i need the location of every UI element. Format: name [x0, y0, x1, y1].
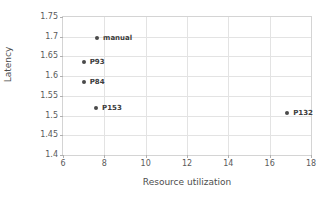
x-tick-label: 12: [182, 160, 192, 168]
data-point-label: P153: [102, 104, 122, 111]
data-point-label: manual: [103, 34, 132, 41]
x-tick-label: 18: [306, 160, 316, 168]
x-tick-mark: [228, 155, 229, 158]
y-tick-label: 1.75: [40, 13, 58, 21]
scatter-chart-figure: 1.41.451.51.551.61.651.71.75681012141618…: [0, 0, 330, 201]
x-tick-label: 6: [60, 160, 65, 168]
y-tick-label: 1.6: [45, 72, 58, 80]
gridline-vertical: [270, 17, 271, 155]
y-tick-label: 1.5: [45, 112, 58, 120]
y-tick-mark: [60, 96, 63, 97]
data-point-label: P132: [293, 110, 313, 117]
x-tick-label: 8: [102, 160, 107, 168]
y-tick-label: 1.65: [40, 52, 58, 60]
gridline-vertical: [146, 17, 147, 155]
data-point-marker: [82, 60, 86, 64]
gridline-vertical: [228, 17, 229, 155]
x-tick-mark: [311, 155, 312, 158]
x-tick-mark: [270, 155, 271, 158]
x-axis-label: Resource utilization: [62, 178, 312, 187]
y-tick-label: 1.45: [40, 131, 58, 139]
y-tick-mark: [60, 116, 63, 117]
gridline-vertical: [187, 17, 188, 155]
plot-area: 1.41.451.51.551.61.651.71.75681012141618…: [62, 16, 312, 156]
data-point-marker: [82, 80, 86, 84]
y-tick-mark: [60, 17, 63, 18]
y-tick-label: 1.55: [40, 92, 58, 100]
y-tick-mark: [60, 135, 63, 136]
data-point-marker: [95, 36, 99, 40]
y-axis-label: Latency: [4, 35, 13, 95]
x-tick-mark: [63, 155, 64, 158]
x-tick-label: 10: [141, 160, 151, 168]
y-tick-label: 1.7: [45, 33, 58, 41]
x-tick-label: 14: [223, 160, 233, 168]
data-point-label: P84: [90, 79, 105, 86]
data-point-marker: [94, 106, 98, 110]
x-tick-label: 16: [265, 160, 275, 168]
x-tick-mark: [146, 155, 147, 158]
data-point-label: P93: [90, 58, 105, 65]
y-tick-label: 1.4: [45, 151, 58, 159]
x-tick-mark: [187, 155, 188, 158]
x-tick-mark: [104, 155, 105, 158]
y-tick-mark: [60, 76, 63, 77]
y-tick-mark: [60, 37, 63, 38]
y-tick-mark: [60, 56, 63, 57]
